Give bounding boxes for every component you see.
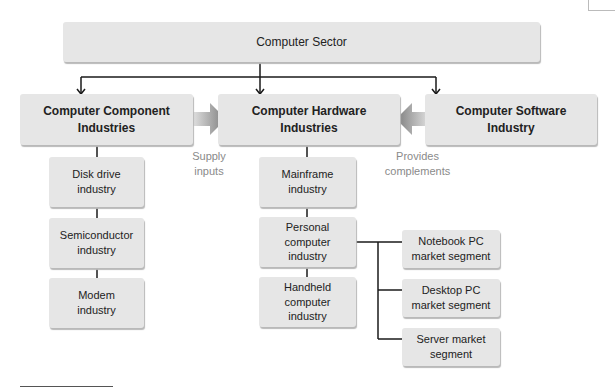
semiconductor-industry-label: Semiconductor industry	[53, 228, 140, 258]
computer-sector-box: Computer Sector	[63, 22, 540, 62]
component-industries-box: Computer Component Industries	[20, 94, 193, 145]
notebook-pc-segment-label: Notebook PC market segment	[406, 234, 496, 264]
desktop-pc-segment-label: Desktop PC market segment	[406, 283, 496, 313]
supply-inputs-label: Supply inputs	[186, 149, 232, 179]
server-segment-box: Server market segment	[402, 328, 500, 366]
software-industry-label: Computer Software Industry	[445, 103, 577, 135]
personal-computer-industry-box: Personal computer industry	[259, 217, 356, 267]
modem-industry-box: Modem industry	[49, 278, 144, 328]
server-segment-label: Server market segment	[408, 332, 494, 362]
hardware-industries-label: Computer Hardware Industries	[248, 103, 370, 135]
modem-industry-label: Modem industry	[69, 288, 124, 318]
mainframe-industry-label: Mainframe industry	[275, 167, 340, 197]
footnote-rule	[20, 386, 113, 387]
provides-complements-label: Provides complements	[380, 149, 455, 179]
computer-sector-label: Computer Sector	[256, 34, 347, 50]
component-industries-label: Computer Component Industries	[28, 103, 185, 135]
desktop-pc-segment-box: Desktop PC market segment	[402, 279, 500, 317]
disk-drive-industry-box: Disk drive industry	[49, 157, 144, 207]
personal-computer-industry-label: Personal computer industry	[277, 220, 338, 265]
semiconductor-industry-box: Semiconductor industry	[49, 218, 144, 268]
mainframe-industry-box: Mainframe industry	[259, 157, 356, 207]
notebook-pc-segment-box: Notebook PC market segment	[402, 230, 500, 268]
handheld-computer-industry-label: Handheld computer industry	[277, 280, 338, 325]
software-industry-box: Computer Software Industry	[425, 94, 597, 145]
disk-drive-industry-label: Disk drive industry	[63, 167, 130, 197]
hardware-industries-box: Computer Hardware Industries	[218, 94, 400, 145]
handheld-computer-industry-box: Handheld computer industry	[259, 277, 356, 327]
